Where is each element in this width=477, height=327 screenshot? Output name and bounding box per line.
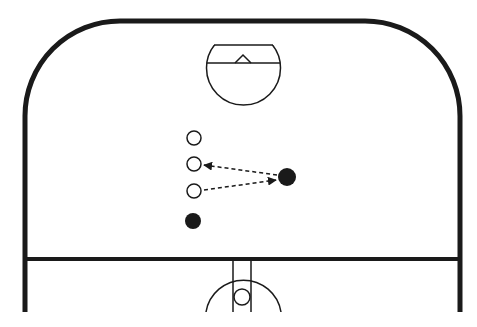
rink-boards xyxy=(25,21,460,312)
goal-area xyxy=(207,31,281,105)
player-filled-1 xyxy=(185,213,201,229)
pass-arrow-2 xyxy=(204,180,276,190)
pass-arrow-1 xyxy=(204,165,277,175)
hockey-rink-diagram xyxy=(0,0,477,327)
player-open-1 xyxy=(187,131,201,145)
center-faceoff xyxy=(206,261,281,312)
faceoff-dot xyxy=(234,289,250,305)
goal-crease-circle xyxy=(207,31,281,105)
net-icon xyxy=(235,55,251,63)
player-open-2 xyxy=(187,157,201,171)
player-open-3 xyxy=(187,184,201,198)
player-filled-2 xyxy=(278,168,296,186)
